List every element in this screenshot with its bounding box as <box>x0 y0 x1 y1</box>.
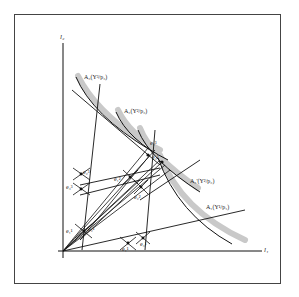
curve-label-a2-prime: A₂'(Y²/p₂) <box>190 178 214 184</box>
curve-label-a3: A₃(Y³/p₃) <box>84 74 107 80</box>
rays-from-origin <box>63 148 170 251</box>
isoquant-diagram <box>0 0 299 297</box>
point-label-e1d: e₁³ <box>150 140 157 146</box>
point-label-e2a: e₂³ <box>83 169 90 175</box>
curve-label-a1: A₁(Y¹/p₁) <box>206 204 229 210</box>
y-axis-label: l₂ <box>60 33 64 41</box>
point-label-e1c: e₁¹ <box>122 246 129 252</box>
point-label-e1a: e₁² <box>114 176 121 182</box>
point-label-e2b: e₂² <box>134 194 141 200</box>
point-label-e2c: e₂¹ <box>88 226 95 232</box>
x-axis-label: l₁ <box>264 246 268 254</box>
point-label-e1b: e₁¹ <box>66 228 73 234</box>
point-label-e3c: e₃¹ <box>140 241 147 247</box>
point-label-e3b: e₃² <box>152 154 159 160</box>
curve-label-a2: A₂(Y²/p₂) <box>124 108 147 114</box>
point-label-e3a: e₃³ <box>66 184 73 190</box>
